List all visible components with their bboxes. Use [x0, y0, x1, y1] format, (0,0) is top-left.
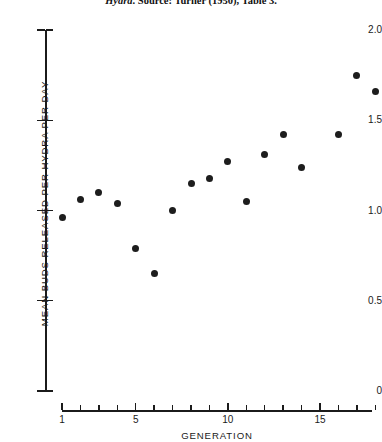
- data-point: [151, 270, 158, 277]
- y-tick-label-1.5: 1.5: [348, 115, 382, 125]
- y-tick-label-0.5: 0.5: [348, 296, 382, 306]
- data-point: [261, 151, 268, 158]
- x-tick-minor-17: [356, 405, 357, 410]
- y-tick-0: [37, 390, 45, 391]
- x-axis-line: [62, 410, 372, 412]
- x-tick-minor-3: [98, 405, 99, 410]
- figure-container: Hydra. Source: Turner (1950), Table 3. 0…: [0, 0, 382, 442]
- x-tick-minor-8: [190, 405, 191, 410]
- x-tick-minor-16: [338, 405, 339, 410]
- x-tick-minor-6: [153, 405, 154, 410]
- y-tick-inner-2.0: [46, 29, 53, 30]
- data-point: [77, 196, 84, 203]
- data-point: [335, 131, 342, 138]
- x-tick-minor-14: [301, 405, 302, 410]
- x-tick-15: [319, 403, 320, 410]
- data-point: [114, 200, 121, 207]
- y-tick-label-2.0: 2.0: [348, 25, 382, 35]
- data-point: [95, 189, 102, 196]
- data-point: [224, 158, 231, 165]
- y-tick-label-1.0: 1.0: [348, 206, 382, 216]
- x-tick-10: [227, 403, 228, 410]
- x-tick-minor-11: [246, 405, 247, 410]
- x-tick-minor-7: [172, 405, 173, 410]
- data-point: [353, 72, 360, 79]
- x-tick-label-5: 5: [124, 414, 148, 425]
- data-point: [188, 180, 195, 187]
- data-point: [298, 164, 305, 171]
- scatter-plot: 00.51.01.52.0 151015 MEAN BUDS RELEASED …: [0, 0, 382, 442]
- x-tick-label-15: 15: [308, 414, 332, 425]
- y-tick-inner-0: [46, 390, 53, 391]
- x-tick-5: [135, 403, 136, 410]
- data-point: [206, 175, 213, 182]
- x-tick-label-10: 10: [216, 414, 240, 425]
- data-point: [372, 88, 379, 95]
- x-axis-label: GENERATION: [62, 430, 372, 441]
- x-tick-minor-9: [209, 405, 210, 410]
- y-tick-label-0: 0: [348, 386, 382, 396]
- data-point: [59, 214, 66, 221]
- x-tick-1: [61, 403, 62, 410]
- x-tick-minor-4: [117, 405, 118, 410]
- data-point: [280, 131, 287, 138]
- x-tick-label-1: 1: [50, 414, 74, 425]
- x-tick-minor-13: [282, 405, 283, 410]
- data-point: [169, 207, 176, 214]
- y-axis-label: MEAN BUDS RELEASED PER HYDRA PER DAY: [39, 54, 50, 354]
- data-point: [243, 198, 250, 205]
- x-tick-minor-18: [375, 405, 376, 410]
- x-tick-minor-12: [264, 405, 265, 410]
- y-tick-2.0: [37, 29, 45, 30]
- data-point: [132, 245, 139, 252]
- x-tick-minor-2: [80, 405, 81, 410]
